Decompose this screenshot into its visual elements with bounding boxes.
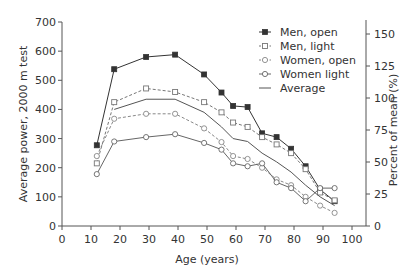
y2-tick-label: 50: [374, 156, 388, 169]
legend-label: Men, light: [280, 40, 335, 53]
x-tick-label: 70: [258, 233, 272, 246]
y-tick-label: 200: [35, 162, 56, 175]
x-tick-label: 80: [287, 233, 301, 246]
legend-item: Average: [259, 82, 325, 95]
x-tick-label: 100: [342, 233, 363, 246]
y-tick-label: 400: [35, 103, 56, 116]
series-women-light: [94, 132, 337, 204]
x-axis-label: Age (years): [175, 253, 239, 266]
y-tick-label: 100: [35, 191, 56, 204]
legend-item: Men, light: [259, 40, 335, 53]
legend: Men, openMen, lightWomen, openWomen ligh…: [259, 26, 356, 95]
y2-tick-label: 75: [374, 124, 388, 137]
x-tick-label: 0: [59, 233, 66, 246]
legend-label: Women light: [280, 68, 350, 81]
y2-tick-label: 125: [374, 60, 395, 73]
legend-item: Women light: [259, 68, 350, 81]
x-tick-label: 50: [200, 233, 214, 246]
series-women-open: [94, 111, 337, 215]
legend-label: Women, open: [280, 54, 356, 67]
y-axis-label: Average power, 2000 m test: [17, 45, 30, 202]
legend-item: Men, open: [259, 26, 338, 39]
y-tick-label: 300: [35, 133, 56, 146]
y2-tick-label: 25: [374, 188, 388, 201]
y2-tick-label: 150: [374, 28, 395, 41]
y-tick-label: 0: [49, 220, 56, 233]
x-tick-label: 20: [113, 233, 127, 246]
series-men-light: [94, 86, 337, 203]
y-axis-left: 0100200300400500600700: [35, 16, 62, 233]
x-tick-label: 10: [84, 233, 98, 246]
y-tick-label: 600: [35, 45, 56, 58]
x-tick-label: 30: [142, 233, 156, 246]
y2-tick-label: 0: [374, 220, 381, 233]
y-tick-label: 700: [35, 16, 56, 29]
legend-item: Women, open: [259, 54, 356, 67]
y-tick-label: 500: [35, 74, 56, 87]
line-chart: 0100200300400500600700 0255075100125150 …: [0, 0, 416, 275]
x-tick-label: 90: [316, 233, 330, 246]
x-tick-label: 60: [229, 233, 243, 246]
legend-label: Average: [280, 82, 325, 95]
x-axis: 0102030405060708090100: [59, 226, 367, 246]
y2-axis-label: Percent of mean (%): [387, 74, 400, 187]
legend-label: Men, open: [280, 26, 338, 39]
x-tick-label: 40: [171, 233, 185, 246]
